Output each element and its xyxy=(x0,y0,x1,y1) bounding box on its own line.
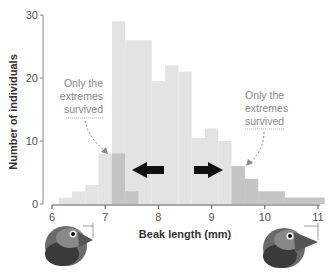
histogram-bar xyxy=(152,81,165,204)
x-tick-label: 9 xyxy=(209,211,215,223)
svg-text:survived: survived xyxy=(245,115,284,127)
histogram-bar xyxy=(218,141,231,204)
histogram-bar xyxy=(125,191,138,204)
x-tick-label: 11 xyxy=(312,211,323,223)
svg-text:Only the: Only the xyxy=(64,77,103,89)
histogram-bar xyxy=(72,191,85,204)
x-tick-label: 8 xyxy=(155,211,161,223)
x-tick-label: 6 xyxy=(49,211,55,223)
svg-text:extremes: extremes xyxy=(245,102,288,114)
dotted-arrow-right xyxy=(249,132,264,164)
y-tick-label: 20 xyxy=(26,72,38,84)
histogram-bar xyxy=(245,179,258,204)
y-tick-label: 10 xyxy=(26,135,38,147)
histogram-bar xyxy=(258,191,285,204)
large-beak-bird-icon xyxy=(263,223,318,268)
svg-text:extremes: extremes xyxy=(60,90,103,102)
histogram-bar xyxy=(112,154,125,204)
y-axis-title: Number of individuals xyxy=(7,54,19,170)
annotation-right: Only the extremes survived xyxy=(245,89,288,166)
histogram-bar xyxy=(285,198,325,204)
y-tick-label: 0 xyxy=(32,198,38,210)
y-ticks: 0102030 xyxy=(26,9,43,210)
x-axis-title: Beak length (mm) xyxy=(139,228,232,240)
histogram-bar xyxy=(232,166,245,204)
histogram-chart: 0102030 67891011 Number of individuals B… xyxy=(0,0,335,276)
x-tick-label: 7 xyxy=(102,211,108,223)
small-beak-bird-icon xyxy=(45,223,93,266)
histogram-bar xyxy=(125,40,152,204)
histogram-bar xyxy=(165,65,178,204)
x-tick-label: 10 xyxy=(259,211,271,223)
histogram-bar xyxy=(59,198,72,204)
histogram-bar xyxy=(85,185,98,204)
x-ticks: 67891011 xyxy=(49,205,324,223)
dotted-arrow-left xyxy=(85,121,106,152)
histogram-bar xyxy=(178,72,191,204)
svg-text:survived: survived xyxy=(64,103,103,115)
y-tick-label: 30 xyxy=(26,9,38,21)
histogram-bar xyxy=(99,154,112,204)
svg-text:Only the: Only the xyxy=(245,89,284,101)
annotation-left: Only the extremes survived xyxy=(60,77,108,154)
